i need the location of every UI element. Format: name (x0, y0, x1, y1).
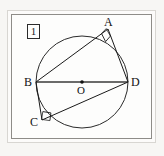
figure-number-box: 1 (27, 24, 40, 39)
segment-AD (108, 29, 128, 82)
point-label-B: B (24, 76, 32, 88)
point-label-O: O (77, 85, 85, 96)
point-label-C: C (30, 116, 38, 128)
point-label-A: A (104, 16, 113, 28)
figure-screenshot: 1 A B C D O (0, 0, 164, 156)
figure-number-label: 1 (31, 26, 37, 37)
right-angle-marker-A (102, 34, 111, 42)
point-label-D: D (131, 76, 140, 88)
